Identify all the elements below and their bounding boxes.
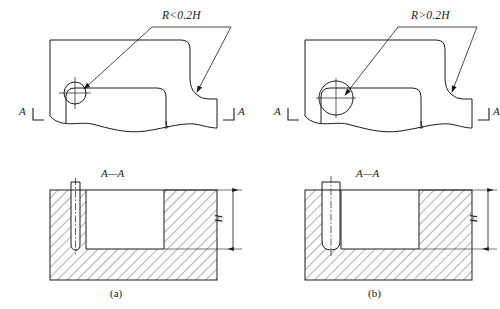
panel-a-section-letter-right: A	[238, 106, 245, 117]
panel-a-dimension-label: H	[213, 215, 224, 223]
panel-a-caption: (a)	[110, 288, 122, 299]
panel-b-section-view	[305, 176, 497, 280]
panel-b-leader-to-circle	[345, 27, 398, 95]
panel-a-section-view	[50, 178, 242, 280]
drawing-sheet: R<0.2H R>0.2H A A A A A—A A—A H H (a) (b…	[0, 0, 500, 309]
panel-b-dimension-label: H	[468, 215, 479, 223]
engineering-drawing-canvas	[0, 0, 500, 309]
panel-a-leader-to-fillet	[197, 27, 231, 92]
panel-a-section-title: A—A	[101, 168, 124, 179]
panel-b-pocket-outline	[341, 190, 419, 249]
panel-b-section-letter-left: A	[274, 106, 281, 117]
panel-a-section-letter-left: A	[19, 106, 26, 117]
panel-b-radius-note: R>0.2H	[411, 10, 450, 22]
panel-a-rib-outline	[66, 88, 168, 128]
panel-a-top-view	[33, 27, 234, 132]
panel-b-section-mark-right	[478, 108, 489, 120]
panel-b-section-title: A—A	[356, 168, 379, 179]
panel-a-section-mark-left	[33, 108, 44, 120]
panel-a-section-mark-right	[223, 108, 234, 120]
panel-b-section-mark-left	[288, 108, 299, 120]
panel-b-caption: (b)	[368, 288, 381, 299]
panel-b-leader-to-fillet	[452, 27, 477, 92]
panel-b-section-letter-right: A	[493, 106, 500, 117]
panel-a-leader-to-circle	[84, 27, 152, 89]
panel-a-break-line	[50, 116, 217, 132]
panel-a-radius-note: R<0.2H	[162, 10, 201, 22]
panel-b-top-view	[288, 27, 489, 132]
panel-b-break-line	[305, 116, 472, 132]
panel-a-pocket-outline	[86, 190, 164, 249]
panel-b-body-outline	[305, 40, 472, 128]
